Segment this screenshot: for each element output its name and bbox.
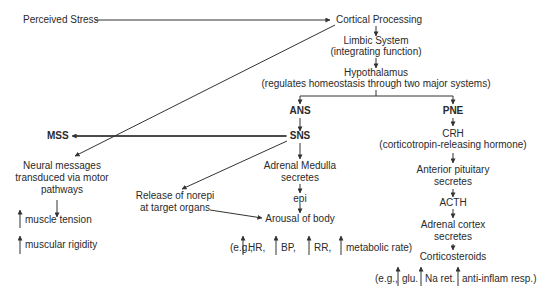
node-hypothalamus-desc: (regulates homeostasis through two major… bbox=[256, 78, 496, 90]
corticosteroid-example-anti-inflam: anti-inflam resp.) bbox=[462, 273, 536, 285]
node-release-norepi: Release of norepi bbox=[120, 190, 230, 202]
corticosteroid-example-na-ret: Na ret. bbox=[425, 273, 455, 285]
corticosteroid-example-glu: glu. bbox=[402, 273, 418, 285]
arousal-example-rr: RR, bbox=[314, 242, 331, 254]
node-release-norepi-target: at target organs bbox=[120, 202, 230, 214]
node-cortical-processing: Cortical Processing bbox=[336, 14, 422, 26]
corticosteroid-examples-prefix: (e.g., bbox=[375, 273, 398, 285]
node-neural-pathways: pathways bbox=[7, 184, 117, 196]
arousal-example-bp: BP, bbox=[281, 242, 296, 254]
arousal-example-hr: HR, bbox=[248, 242, 265, 254]
node-neural-transduced: transduced via motor bbox=[7, 172, 117, 184]
node-adrenal-medulla: Adrenal Medulla bbox=[250, 160, 350, 172]
node-arousal: Arousal of body bbox=[250, 213, 350, 225]
node-acth: ACTH bbox=[423, 197, 483, 209]
node-neural-messages: Neural messages bbox=[7, 160, 117, 172]
node-perceived-stress: Perceived Stress bbox=[23, 14, 99, 26]
node-adrenal-medulla-secretes: secretes bbox=[250, 172, 350, 184]
node-corticosteroids: Corticosteroids bbox=[393, 251, 513, 263]
node-muscle-tension: muscle tension bbox=[25, 214, 92, 226]
node-adrenal-cortex: Adrenal cortex bbox=[393, 219, 513, 231]
node-limbic-function: (integrating function) bbox=[306, 46, 446, 58]
node-anterior-pituitary-secretes: secretes bbox=[393, 176, 513, 188]
node-ans: ANS bbox=[280, 105, 320, 117]
node-sns: SNS bbox=[280, 130, 320, 142]
node-crh-desc: (corticotropin-releasing hormone) bbox=[373, 139, 533, 151]
node-muscular-rigidity: muscular rigidity bbox=[25, 239, 97, 251]
node-adrenal-cortex-secretes: secretes bbox=[393, 231, 513, 243]
node-pne: PNE bbox=[433, 105, 473, 117]
node-mss: MSS bbox=[47, 130, 69, 142]
node-anterior-pituitary: Anterior pituitary bbox=[393, 164, 513, 176]
node-epi: epi bbox=[280, 193, 320, 205]
